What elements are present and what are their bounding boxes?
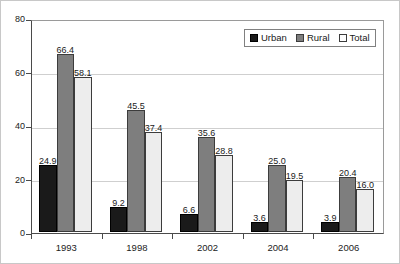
legend-swatch-urban-icon [250, 34, 258, 42]
legend-swatch-total-icon [339, 34, 347, 42]
bar-value-label: 28.8 [209, 146, 239, 156]
legend-swatch-rural-icon [296, 34, 304, 42]
bar-total-1993[interactable] [74, 77, 92, 232]
y-axis-tick-label: 80 [1, 15, 25, 24]
x-axis-tick-label-1998: 1998 [102, 242, 173, 253]
x-axis-tick-mark [243, 234, 244, 239]
bar-urban-2006[interactable] [321, 222, 339, 232]
y-axis-tick-label: 60 [1, 69, 25, 78]
x-axis-tick-label-1993: 1993 [31, 242, 102, 253]
legend-entry-urban[interactable]: Urban [250, 33, 287, 43]
bar-value-label: 16.0 [350, 180, 380, 190]
bar-value-label: 58.1 [68, 68, 98, 78]
bar-total-2002[interactable] [215, 155, 233, 232]
bar-value-label: 37.4 [139, 123, 169, 133]
y-axis-tick-mark [26, 180, 31, 181]
chart-figure: 02040608019931998200220042006 24.966.458… [0, 0, 400, 264]
bar-value-label: 66.4 [51, 45, 81, 55]
bar-total-2006[interactable] [356, 189, 374, 232]
y-axis-tick-label: 0 [1, 229, 25, 238]
legend-label-rural: Rural [307, 33, 330, 43]
y-axis-tick-label: 40 [1, 122, 25, 131]
y-axis-tick-mark [26, 73, 31, 74]
bar-value-label: 25.0 [262, 156, 292, 166]
x-axis-tick-mark [31, 234, 32, 239]
bar-urban-2004[interactable] [251, 222, 269, 232]
x-axis-tick-label-2002: 2002 [172, 242, 243, 253]
bar-value-label: 19.5 [280, 171, 310, 181]
y-axis-tick-mark [26, 127, 31, 128]
bar-value-label: 20.4 [333, 168, 363, 178]
bar-urban-1998[interactable] [110, 207, 128, 232]
y-axis-tick-mark [26, 20, 31, 21]
x-axis-tick-mark [172, 234, 173, 239]
y-axis-tick-label: 20 [1, 176, 25, 185]
x-axis-tick-label-2006: 2006 [313, 242, 384, 253]
bar-total-2004[interactable] [286, 180, 304, 232]
legend-label-total: Total [350, 33, 370, 43]
legend-label-urban: Urban [261, 33, 287, 43]
legend-entry-total[interactable]: Total [339, 33, 370, 43]
x-axis-tick-mark [102, 234, 103, 239]
x-axis-tick-label-2004: 2004 [243, 242, 314, 253]
bar-rural-1993[interactable] [57, 54, 75, 232]
bar-total-1998[interactable] [145, 132, 163, 232]
legend-entry-rural[interactable]: Rural [296, 33, 330, 43]
x-axis-tick-mark [313, 234, 314, 239]
bar-urban-2002[interactable] [180, 214, 198, 232]
bar-value-label: 45.5 [121, 101, 151, 111]
bar-urban-1993[interactable] [39, 165, 57, 232]
chart-legend: Urban Rural Total [244, 29, 376, 47]
bar-value-label: 35.6 [192, 128, 222, 138]
